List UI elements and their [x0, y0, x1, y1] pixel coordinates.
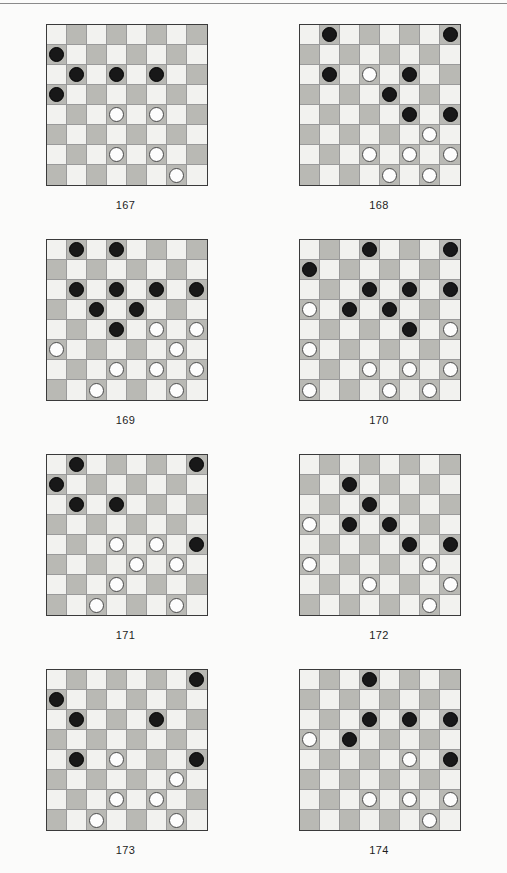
board-square[interactable]: [300, 575, 320, 595]
board-square[interactable]: [47, 730, 67, 750]
board-square[interactable]: [380, 670, 400, 690]
white-piece[interactable]: [302, 732, 317, 747]
checkers-board[interactable]: [46, 669, 208, 831]
board-square[interactable]: [87, 455, 107, 475]
board-square[interactable]: [47, 25, 67, 45]
board-square[interactable]: [300, 45, 320, 65]
board-square[interactable]: [67, 45, 87, 65]
board-square[interactable]: [47, 85, 67, 105]
board-square[interactable]: [87, 575, 107, 595]
board-square[interactable]: [400, 340, 420, 360]
board-square[interactable]: [167, 690, 187, 710]
board-square[interactable]: [300, 475, 320, 495]
white-piece[interactable]: [169, 342, 184, 357]
black-piece[interactable]: [342, 477, 357, 492]
white-piece[interactable]: [89, 813, 104, 828]
board-square[interactable]: [380, 280, 400, 300]
board-square[interactable]: [420, 340, 440, 360]
board-square[interactable]: [420, 25, 440, 45]
board-square[interactable]: [360, 595, 380, 615]
board-square[interactable]: [67, 535, 87, 555]
board-square[interactable]: [360, 515, 380, 535]
board-square[interactable]: [300, 85, 320, 105]
black-piece[interactable]: [189, 282, 204, 297]
white-piece[interactable]: [362, 577, 377, 592]
board-square[interactable]: [87, 475, 107, 495]
board-square[interactable]: [440, 300, 460, 320]
board-square[interactable]: [107, 690, 127, 710]
board-square[interactable]: [187, 710, 207, 730]
board-square[interactable]: [320, 45, 340, 65]
board-square[interactable]: [47, 380, 67, 400]
black-piece[interactable]: [443, 242, 458, 257]
board-square[interactable]: [147, 25, 167, 45]
white-piece[interactable]: [189, 322, 204, 337]
board-square[interactable]: [127, 320, 147, 340]
board-square[interactable]: [67, 380, 87, 400]
board-square[interactable]: [187, 260, 207, 280]
board-square[interactable]: [67, 790, 87, 810]
board-square[interactable]: [420, 730, 440, 750]
black-piece[interactable]: [49, 692, 64, 707]
board-square[interactable]: [67, 455, 87, 475]
board-square[interactable]: [87, 125, 107, 145]
board-square[interactable]: [87, 690, 107, 710]
black-piece[interactable]: [402, 282, 417, 297]
board-square[interactable]: [147, 595, 167, 615]
board-square[interactable]: [167, 555, 187, 575]
board-square[interactable]: [380, 555, 400, 575]
board-square[interactable]: [320, 145, 340, 165]
black-piece[interactable]: [443, 282, 458, 297]
board-square[interactable]: [47, 690, 67, 710]
white-piece[interactable]: [422, 168, 437, 183]
board-square[interactable]: [127, 380, 147, 400]
board-square[interactable]: [320, 750, 340, 770]
board-square[interactable]: [167, 575, 187, 595]
white-piece[interactable]: [149, 537, 164, 552]
board-square[interactable]: [167, 45, 187, 65]
board-square[interactable]: [107, 575, 127, 595]
board-square[interactable]: [67, 750, 87, 770]
board-square[interactable]: [187, 575, 207, 595]
white-piece[interactable]: [89, 598, 104, 613]
board-square[interactable]: [167, 455, 187, 475]
board-square[interactable]: [440, 810, 460, 830]
board-square[interactable]: [147, 105, 167, 125]
board-square[interactable]: [440, 105, 460, 125]
board-square[interactable]: [360, 45, 380, 65]
board-square[interactable]: [147, 280, 167, 300]
white-piece[interactable]: [302, 517, 317, 532]
board-square[interactable]: [400, 105, 420, 125]
board-square[interactable]: [360, 85, 380, 105]
board-square[interactable]: [127, 360, 147, 380]
white-piece[interactable]: [169, 383, 184, 398]
board-square[interactable]: [320, 475, 340, 495]
board-square[interactable]: [320, 455, 340, 475]
white-piece[interactable]: [422, 813, 437, 828]
black-piece[interactable]: [189, 457, 204, 472]
checkers-board[interactable]: [299, 454, 461, 616]
board-square[interactable]: [47, 145, 67, 165]
board-square[interactable]: [187, 280, 207, 300]
board-square[interactable]: [300, 165, 320, 185]
board-square[interactable]: [420, 240, 440, 260]
board-square[interactable]: [380, 595, 400, 615]
black-piece[interactable]: [49, 87, 64, 102]
board-square[interactable]: [420, 165, 440, 185]
board-square[interactable]: [67, 340, 87, 360]
board-square[interactable]: [187, 670, 207, 690]
board-square[interactable]: [67, 360, 87, 380]
board-square[interactable]: [340, 65, 360, 85]
board-square[interactable]: [440, 320, 460, 340]
black-piece[interactable]: [49, 477, 64, 492]
board-square[interactable]: [380, 85, 400, 105]
board-square[interactable]: [380, 340, 400, 360]
board-square[interactable]: [167, 260, 187, 280]
board-square[interactable]: [147, 455, 167, 475]
board-square[interactable]: [340, 340, 360, 360]
white-piece[interactable]: [402, 752, 417, 767]
black-piece[interactable]: [189, 537, 204, 552]
board-square[interactable]: [420, 105, 440, 125]
black-piece[interactable]: [402, 107, 417, 122]
white-piece[interactable]: [109, 577, 124, 592]
